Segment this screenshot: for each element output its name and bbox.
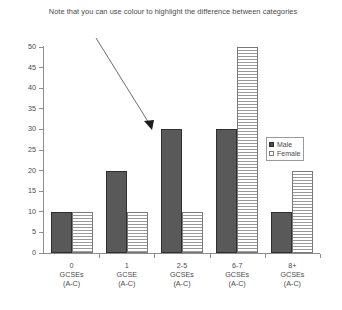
x-axis-category-line: GCSEs xyxy=(265,270,320,279)
bar-male xyxy=(161,129,182,253)
bar-female xyxy=(72,212,93,253)
bar-female xyxy=(127,212,148,253)
x-axis-category-label: 1GCSE(A-C) xyxy=(99,261,154,289)
x-axis-category-line: (A-C) xyxy=(210,279,265,288)
legend-label-female: Female xyxy=(277,150,300,157)
bar-female xyxy=(292,171,313,253)
y-axis-tick-label: 40 xyxy=(0,84,36,91)
x-axis-line xyxy=(43,253,320,254)
chart-title: Note that you can use colour to highligh… xyxy=(42,7,304,17)
bar-female xyxy=(182,212,203,253)
legend-swatch-male-icon xyxy=(269,142,274,147)
x-axis-category-label: 8+GCSEs(A-C) xyxy=(265,261,320,289)
y-axis-tick-label: 0 xyxy=(0,249,36,256)
x-axis-category-line: (A-C) xyxy=(44,279,99,288)
x-axis-category-line: (A-C) xyxy=(265,279,320,288)
y-axis-tick-label: 35 xyxy=(0,105,36,112)
y-axis-tick-label: 15 xyxy=(0,187,36,194)
y-axis-tick-label: 30 xyxy=(0,125,36,132)
y-axis-tick-label: 10 xyxy=(0,208,36,215)
legend-swatch-female-icon xyxy=(269,151,274,156)
y-axis-tick-label: 50 xyxy=(0,43,36,50)
bar-male xyxy=(106,171,127,253)
x-axis-tick xyxy=(210,254,211,258)
x-axis-tick xyxy=(154,254,155,258)
bar-male xyxy=(271,212,292,253)
x-axis-tick xyxy=(99,254,100,258)
y-axis-tick-label: 5 xyxy=(0,228,36,235)
bar-male xyxy=(51,212,72,253)
chart-legend: Male Female xyxy=(266,137,304,161)
x-axis-tick xyxy=(265,254,266,258)
x-axis-category-line: 0 xyxy=(44,261,99,270)
x-axis-category-line: GCSEs xyxy=(154,270,209,279)
x-axis-category-line: 6-7 xyxy=(210,261,265,270)
bar-male xyxy=(216,129,237,253)
x-axis-category-line: GCSE xyxy=(99,270,154,279)
legend-item-male: Male xyxy=(269,140,300,149)
x-axis-category-label: 6-7GCSEs(A-C) xyxy=(210,261,265,289)
x-axis-category-label: 0GCSEs(A-C) xyxy=(44,261,99,289)
x-axis-category-line: (A-C) xyxy=(154,279,209,288)
x-axis-category-line: GCSEs xyxy=(210,270,265,279)
legend-label-male: Male xyxy=(277,141,292,148)
x-axis-category-line: 2-5 xyxy=(154,261,209,270)
y-axis-tick-label: 25 xyxy=(0,146,36,153)
x-axis-category-line: 1 xyxy=(99,261,154,270)
y-axis-tick-label: 20 xyxy=(0,167,36,174)
x-axis-category-label: 2-5GCSEs(A-C) xyxy=(154,261,209,289)
x-axis-category-line: 8+ xyxy=(265,261,320,270)
x-axis-category-line: GCSEs xyxy=(44,270,99,279)
y-axis-tick-label: 45 xyxy=(0,64,36,71)
x-axis-tick xyxy=(320,254,321,258)
x-axis-category-line: (A-C) xyxy=(99,279,154,288)
legend-item-female: Female xyxy=(269,149,300,158)
bar-chart: Note that you can use colour to highligh… xyxy=(0,0,342,310)
bar-female xyxy=(237,47,258,253)
